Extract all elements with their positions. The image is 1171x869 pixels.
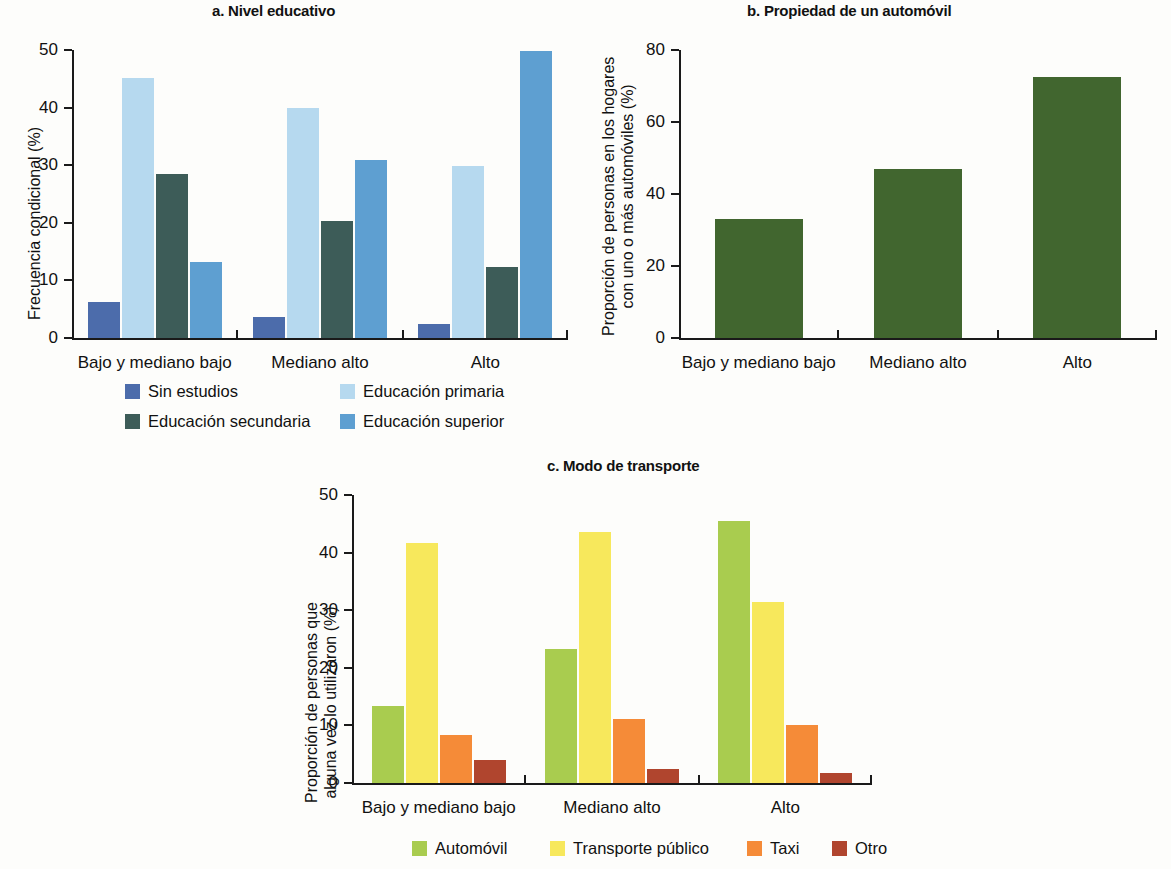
legend-swatch-icon-taxi <box>747 841 762 856</box>
legend-label-otro: Otro <box>855 840 887 857</box>
y-tick-label: 40 <box>625 185 665 202</box>
legend-swatch-icon-sin-estudios <box>125 384 140 399</box>
panel-c-title: c. Modo de transporte <box>547 457 699 474</box>
y-tick-mark <box>64 49 72 51</box>
y-tick-mark <box>344 667 352 669</box>
bar <box>88 302 120 338</box>
bar <box>820 773 852 783</box>
x-axis-end-tick <box>870 775 872 783</box>
panel-a-legend: Sin estudios Educación primaria Educació… <box>125 383 545 439</box>
y-tick-mark <box>671 49 679 51</box>
x-category-label: Alto <box>699 799 872 816</box>
panel-c-modo-transporte: c. Modo de transporte Proporción de pers… <box>230 455 930 869</box>
legend-swatch-icon-otro <box>832 841 847 856</box>
y-tick-mark <box>64 337 72 339</box>
legend-label-educacion-primaria: Educación primaria <box>363 383 504 400</box>
y-tick-label: 20 <box>18 214 58 231</box>
legend-label-sin-estudios: Sin estudios <box>148 383 238 400</box>
x-category-label: Bajo y mediano bajo <box>352 799 525 816</box>
legend-label-automovil: Automóvil <box>435 840 507 857</box>
legend-swatch-icon-transporte-publico <box>550 841 565 856</box>
y-tick-label: 50 <box>18 41 58 58</box>
bar <box>1033 77 1121 338</box>
y-tick-mark <box>344 494 352 496</box>
bar <box>253 317 285 338</box>
bar <box>122 78 154 338</box>
bar <box>190 262 222 338</box>
bar <box>321 221 353 338</box>
x-tick-mark <box>236 330 238 338</box>
y-tick-label: 0 <box>625 329 665 346</box>
legend-item-educacion-superior[interactable]: Educación superior <box>340 413 504 430</box>
y-tick-mark <box>344 724 352 726</box>
x-axis-line <box>72 338 568 340</box>
y-tick-mark <box>64 107 72 109</box>
panel-b-propiedad-automovil: b. Propiedad de un automóvil Proporción … <box>590 0 1171 400</box>
bar <box>156 174 188 338</box>
panel-c-ylabel-line2: alguna vez lo utilizaron (%) <box>322 606 339 798</box>
legend-label-transporte-publico: Transporte público <box>573 840 709 857</box>
bar <box>874 169 962 338</box>
panel-b-title: b. Propiedad de un automóvil <box>747 2 951 19</box>
bar <box>372 706 404 783</box>
bar <box>786 725 818 783</box>
y-tick-label: 60 <box>625 113 665 130</box>
x-category-label: Mediano alto <box>237 354 402 371</box>
legend-item-educacion-secundaria[interactable]: Educación secundaria <box>125 413 310 430</box>
bar <box>474 760 506 783</box>
y-tick-mark <box>64 279 72 281</box>
x-category-label: Bajo y mediano bajo <box>679 354 838 371</box>
panel-b-ylabel-line1: Proporción de personas en los hogares <box>600 57 617 336</box>
bar <box>287 108 319 338</box>
y-tick-label: 20 <box>625 257 665 274</box>
y-tick-mark <box>671 265 679 267</box>
y-tick-label: 20 <box>298 659 338 676</box>
y-tick-label: 0 <box>298 774 338 791</box>
x-axis-line <box>679 338 1157 340</box>
y-tick-mark <box>344 782 352 784</box>
legend-item-otro[interactable]: Otro <box>832 840 887 857</box>
bar <box>418 324 450 338</box>
legend-swatch-icon-automovil <box>412 841 427 856</box>
y-axis-line <box>72 50 74 338</box>
legend-item-transporte-publico[interactable]: Transporte público <box>550 840 709 857</box>
bar <box>752 602 784 783</box>
y-axis-line <box>679 50 681 338</box>
y-tick-label: 10 <box>18 271 58 288</box>
y-tick-mark <box>64 222 72 224</box>
x-axis-line <box>352 783 872 785</box>
y-tick-label: 10 <box>298 716 338 733</box>
y-tick-label: 30 <box>18 156 58 173</box>
y-tick-mark <box>344 609 352 611</box>
legend-label-taxi: Taxi <box>770 840 799 857</box>
bar <box>545 649 577 783</box>
legend-item-sin-estudios[interactable]: Sin estudios <box>125 383 238 400</box>
legend-item-automovil[interactable]: Automóvil <box>412 840 507 857</box>
y-tick-mark <box>344 552 352 554</box>
y-tick-label: 40 <box>298 544 338 561</box>
y-tick-label: 80 <box>625 41 665 58</box>
bar <box>486 267 518 338</box>
x-tick-mark <box>524 775 526 783</box>
x-tick-mark <box>837 330 839 338</box>
y-tick-label: 50 <box>298 486 338 503</box>
bar <box>613 719 645 783</box>
legend-item-educacion-primaria[interactable]: Educación primaria <box>340 383 504 400</box>
panel-c-ylabel-line1: Proporción de personas que <box>303 602 320 803</box>
bar <box>440 735 472 783</box>
panel-a-plot-area: 01020304050Bajo y mediano bajoMediano al… <box>72 50 568 338</box>
panel-c-legend: Automóvil Transporte público Taxi Otro <box>412 840 972 864</box>
bar <box>520 51 552 338</box>
bar <box>406 543 438 783</box>
legend-swatch-icon-educacion-superior <box>340 414 355 429</box>
x-category-label: Mediano alto <box>525 799 698 816</box>
legend-label-educacion-superior: Educación superior <box>363 413 504 430</box>
legend-item-taxi[interactable]: Taxi <box>747 840 799 857</box>
x-category-label: Mediano alto <box>838 354 997 371</box>
x-axis-end-tick <box>566 330 568 338</box>
legend-swatch-icon-educacion-secundaria <box>125 414 140 429</box>
x-tick-mark <box>402 330 404 338</box>
bar <box>452 166 484 338</box>
y-axis-line <box>352 495 354 783</box>
legend-swatch-icon-educacion-primaria <box>340 384 355 399</box>
